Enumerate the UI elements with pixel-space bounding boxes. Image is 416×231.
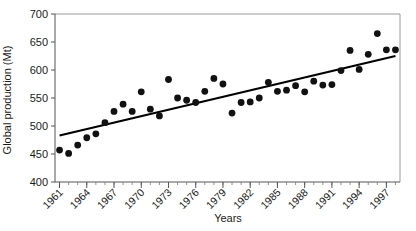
data-point	[383, 46, 390, 53]
x-tick-label: 1994	[340, 186, 365, 211]
data-point	[174, 95, 181, 102]
data-point	[165, 76, 172, 83]
y-tick-label: 650	[30, 36, 48, 48]
data-point	[183, 97, 190, 104]
x-tick-label: 1982	[231, 186, 256, 211]
y-tick-label: 600	[30, 64, 48, 76]
data-point	[356, 66, 363, 73]
data-point	[265, 79, 272, 86]
data-point	[74, 142, 81, 149]
y-axis-ticks	[51, 14, 55, 182]
data-point	[138, 88, 145, 95]
data-point	[238, 99, 245, 106]
data-point	[338, 67, 345, 74]
data-point	[83, 134, 90, 141]
chart-figure: 400450500550600650700 196119641967197019…	[0, 0, 416, 231]
x-tick-label: 1976	[176, 186, 201, 211]
data-point	[347, 47, 354, 54]
x-tick-label: 1988	[285, 186, 310, 211]
data-point	[229, 110, 236, 117]
x-tick-label: 1991	[312, 186, 337, 211]
x-tick-label: 1967	[94, 186, 119, 211]
data-point	[247, 99, 254, 106]
trend-line	[60, 56, 396, 136]
y-tick-label: 450	[30, 148, 48, 160]
x-tick-label: 1970	[122, 186, 147, 211]
x-axis-title: Years	[214, 212, 242, 224]
data-point	[147, 106, 154, 113]
data-point	[365, 51, 372, 58]
x-tick-label: 1985	[258, 186, 283, 211]
plot-frame	[55, 14, 400, 182]
data-point	[129, 108, 136, 115]
x-tick-label: 1973	[149, 186, 174, 211]
data-point	[92, 130, 99, 137]
data-point	[65, 150, 72, 157]
plot-axes	[55, 14, 400, 182]
data-point	[274, 88, 281, 95]
x-tick-label: 1961	[40, 186, 65, 211]
x-tick-label: 1964	[67, 186, 92, 211]
data-point	[374, 30, 381, 37]
data-point	[120, 101, 127, 108]
trend-line-segment	[60, 56, 396, 136]
data-point	[319, 82, 326, 89]
data-point	[102, 119, 109, 126]
x-tick-label: 1997	[367, 186, 392, 211]
data-point	[56, 147, 63, 154]
data-point	[210, 75, 217, 82]
data-point	[220, 81, 227, 88]
y-axis-title: Global production (Mt)	[1, 46, 13, 155]
data-point	[329, 81, 336, 88]
data-point	[201, 88, 208, 95]
data-point	[256, 95, 263, 102]
data-points	[56, 30, 399, 157]
x-axis-tick-labels: 1961196419671970197319761979198219851988…	[40, 186, 392, 211]
y-tick-label: 700	[30, 8, 48, 20]
data-point	[192, 99, 199, 106]
y-tick-label: 500	[30, 120, 48, 132]
scatter-chart: 400450500550600650700 196119641967197019…	[0, 0, 416, 231]
x-tick-label: 1979	[203, 186, 228, 211]
y-tick-label: 400	[30, 176, 48, 188]
data-point	[292, 82, 299, 89]
y-tick-label: 550	[30, 92, 48, 104]
data-point	[301, 88, 308, 95]
data-point	[310, 78, 317, 85]
data-point	[392, 46, 399, 53]
plot-border	[55, 14, 400, 182]
data-point	[283, 87, 290, 94]
data-point	[156, 113, 163, 120]
y-axis-tick-labels: 400450500550600650700	[30, 8, 48, 188]
data-point	[111, 108, 118, 115]
